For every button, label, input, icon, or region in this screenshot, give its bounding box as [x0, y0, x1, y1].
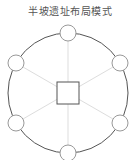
node-circle: [60, 25, 76, 41]
node-circle: [8, 55, 24, 71]
node-circle: [112, 55, 128, 71]
node-circle: [112, 115, 128, 131]
layout-diagram: [0, 0, 140, 160]
node-circle: [8, 115, 24, 131]
center-square: [57, 82, 79, 104]
node-circle: [60, 145, 76, 160]
